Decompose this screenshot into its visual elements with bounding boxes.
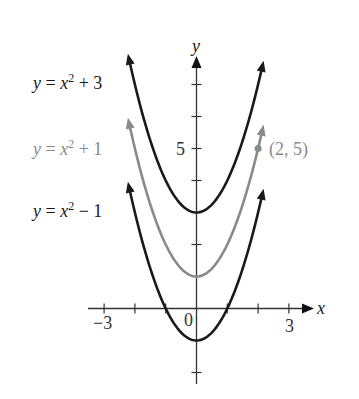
y-axis-label: y: [190, 36, 200, 56]
y-tick-label-5: 5: [176, 139, 185, 159]
curve-arrow-icon: [126, 182, 135, 194]
x-tick-label-3: 3: [285, 316, 294, 336]
curve-0: [129, 58, 263, 213]
axes: [88, 56, 314, 384]
curve-arrow-icon: [126, 118, 135, 130]
curve-arrow-icon: [257, 61, 266, 73]
x-tick-label-neg3: −3: [93, 313, 112, 333]
point-label: (2, 5): [269, 139, 308, 160]
parabola-chart: y = x2 + 3 y = x2 + 1 y = x2 − 1 y x −3 …: [0, 0, 359, 399]
curves: [126, 54, 266, 341]
label-curve-bot: y = x2 − 1: [31, 199, 102, 221]
x-axis-label: x: [316, 298, 325, 318]
origin-label: 0: [184, 310, 193, 330]
curve-arrow-icon: [257, 189, 266, 201]
label-curve-mid: y = x2 + 1: [31, 137, 102, 159]
label-curve-top: y = x2 + 3: [31, 71, 102, 93]
x-axis-arrow-icon: [302, 304, 314, 314]
point-marker: [255, 145, 262, 152]
y-axis-arrow-icon: [192, 56, 202, 68]
curve-arrow-icon: [126, 54, 135, 66]
curve-arrow-icon: [257, 125, 266, 137]
